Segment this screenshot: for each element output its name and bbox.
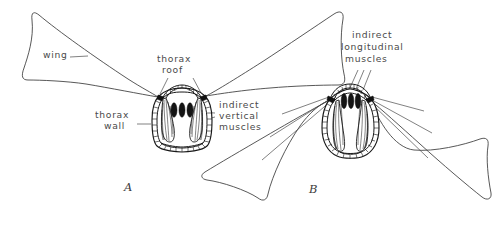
label-wing: wing <box>43 49 68 60</box>
label-thorax-roof-line1: thorax <box>157 53 191 64</box>
longitudinal-muscle-a-1 <box>171 103 177 117</box>
wing-b-right <box>371 101 491 199</box>
label-indirect-vertical-line1: indirect <box>219 99 259 110</box>
label-indirect-vertical-line2: vertical <box>219 110 259 121</box>
longitudinal-muscle-b-2 <box>348 93 354 108</box>
longitudinal-muscles-b <box>341 93 361 108</box>
label-indirect-longitudinal-line2: longitudinal <box>341 41 404 52</box>
longitudinal-muscle-b-1 <box>341 93 347 108</box>
figure-label-b: B <box>308 182 318 196</box>
longitudinal-muscles-a <box>171 103 193 117</box>
label-thorax-roof-line2: roof <box>162 64 183 75</box>
label-thorax-wall-line2: wall <box>104 120 125 131</box>
figure-label-a: A <box>123 180 133 194</box>
label-thorax-wall-line1: thorax <box>95 109 129 120</box>
longitudinal-muscle-a-3 <box>187 103 193 117</box>
label-indirect-longitudinal-line3: muscles <box>345 53 388 64</box>
leader-longitudinal-3 <box>363 70 371 90</box>
wing-a-right <box>206 12 345 96</box>
label-indirect-longitudinal-line1: indirect <box>352 29 392 40</box>
diagram-canvas: wing thorax roof thorax wall indirect ve… <box>0 0 495 225</box>
label-indirect-vertical-line3: muscles <box>219 121 262 132</box>
longitudinal-muscle-a-2 <box>179 103 185 117</box>
